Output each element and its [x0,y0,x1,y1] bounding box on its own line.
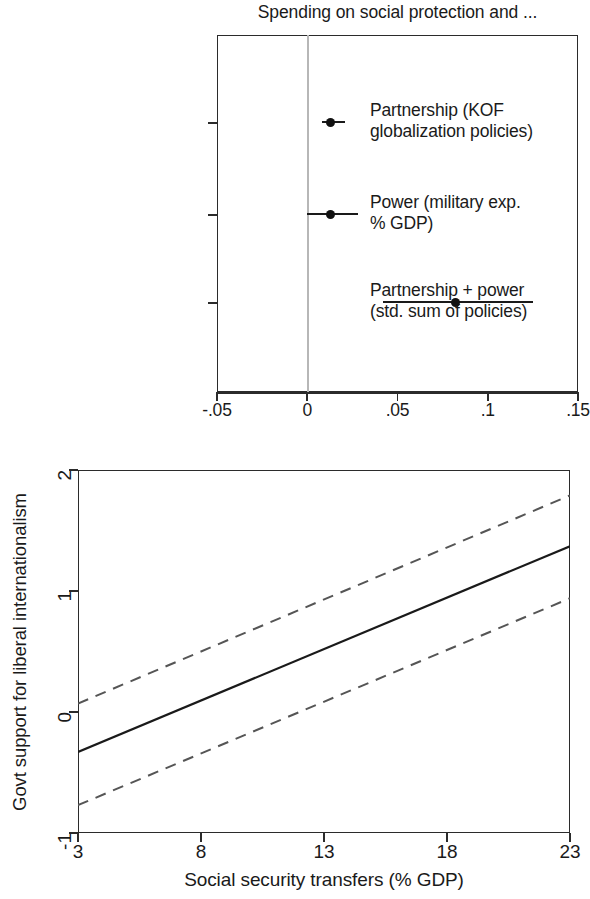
panel-a-row-label-0: Partnership (KOF globalization policies) [370,100,580,142]
panel-a-title: Spending on social protection and ... [217,2,578,23]
panel-a-xtick-label-2: .05 [386,400,410,421]
panel-a-xtick-label-0: -.05 [202,400,231,421]
coefficient-plot-panel: Spending on social protection and ... Pa… [0,0,580,420]
panel-a-row-label-1-line-0: Power (military exp. [370,192,580,213]
panel-a-row-label-0-line-1: globalization policies) [370,121,580,142]
panel-b-xtick-label-0: 3 [73,841,84,863]
panel-a-xtick-label-1: 0 [302,400,312,421]
panel-a-estimate-dot-1 [326,210,335,219]
panel-b-x-axis-title: Social security transfers (% GDP) [78,869,570,891]
panel-a-row-label-2-line-1: (std. sum of policies) [370,301,580,322]
panel-a-ytick-1 [208,214,217,216]
panel-b-y-axis-title: Govt support for liberal internationalis… [6,470,34,833]
panel-a-ytick-2 [208,302,217,304]
panel-b-ytick-label-1: 1 [54,591,76,602]
marginal-effects-panel: Govt support for liberal internationalis… [0,420,580,899]
panel-a-estimate-dot-2 [451,298,460,307]
panel-b-xtick-label-3: 18 [436,841,457,863]
panel-b-xtick-label-4: 23 [559,841,580,863]
panel-a-estimate-dot-0 [326,118,335,127]
panel-a-xtick-label-4: .15 [566,400,590,421]
panel-b-xtick-label-1: 8 [196,841,207,863]
panel-a-row-label-1-line-1: % GDP) [370,213,580,234]
panel-a-row-label-0-line-0: Partnership (KOF [370,100,580,121]
panel-a-row-label-2-line-0: Partnership + power [370,280,580,301]
panel-b-ytick-label-0: 2 [54,470,76,481]
panel-b-xtick-label-2: 13 [313,841,334,863]
panel-a-ytick-0 [208,122,217,124]
panel-b-lines [78,470,570,833]
panel-a-xtick-label-3: .1 [481,400,495,421]
panel-b-y-axis-title-text: Govt support for liberal internationalis… [9,493,31,811]
panel-b-ytick-label-2: 0 [54,712,76,723]
panel-a-row-label-1: Power (military exp. % GDP) [370,192,580,234]
